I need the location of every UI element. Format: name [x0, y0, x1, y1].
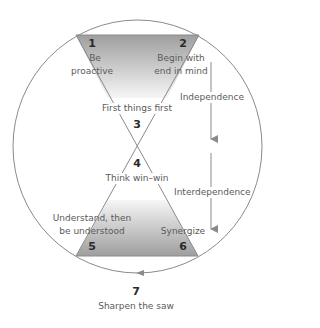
- habit-1-label-line2: proactive: [71, 66, 113, 77]
- habit-4-number: 4: [133, 158, 141, 170]
- habit-1-number: 1: [88, 38, 96, 50]
- interdependence-label: Interdependence: [174, 187, 251, 198]
- habit-5-label-line2: be understood: [59, 226, 124, 237]
- habit-5-number: 5: [88, 241, 96, 253]
- habit-4-label: Think win–win: [104, 173, 169, 184]
- independence-label: Independence: [180, 92, 244, 103]
- habit-2-label-line1: Begin with: [157, 53, 205, 64]
- habit-6-number: 6: [179, 241, 187, 253]
- habit-3-number: 3: [133, 119, 141, 131]
- habit-6-label: Synergize: [161, 226, 205, 237]
- habit-7-label: Sharpen the saw: [98, 301, 174, 312]
- habit-2-number: 2: [179, 38, 187, 50]
- habit-1-label-line1: Be: [89, 53, 101, 64]
- habit-7-number: 7: [132, 286, 140, 298]
- habit-3-label: First things first: [101, 103, 173, 114]
- habit-5-label-line1: Understand, then: [53, 213, 132, 224]
- habit-2-label-line2: end in mind: [154, 66, 208, 77]
- circle-arrowhead-icon: [136, 270, 144, 276]
